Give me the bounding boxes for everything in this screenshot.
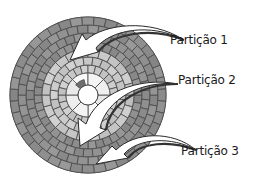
label-partition-2: Partição 2: [178, 73, 236, 87]
disk-partition-diagram: Partição 1 Partição 2 Partição 3: [0, 0, 256, 184]
label-partition-1: Partição 1: [170, 33, 228, 47]
label-partition-3: Partição 3: [181, 144, 239, 158]
